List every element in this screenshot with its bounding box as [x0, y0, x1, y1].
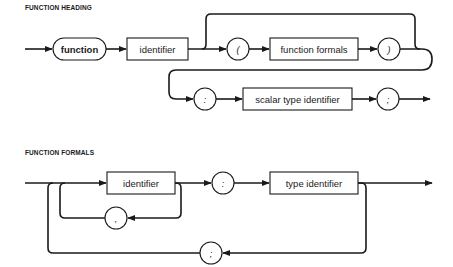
function-keyword-label: function: [61, 44, 99, 55]
scalar-type-identifier-node: scalar type identifier: [243, 88, 352, 110]
syntax-diagrams: function identifier ( function formals ): [0, 0, 453, 267]
close-paren-label: ): [387, 45, 391, 55]
comma-node: ,: [105, 207, 127, 229]
semicolon-node: ;: [200, 242, 222, 264]
comma-label: ,: [115, 214, 118, 224]
open-paren-node: (: [227, 38, 249, 60]
comma-return-path: [60, 183, 105, 218]
function-heading-diagram: function identifier ( function formals ): [25, 14, 432, 110]
type-identifier-node: type identifier: [270, 172, 358, 194]
scalar-type-identifier-label: scalar type identifier: [255, 94, 339, 105]
function-formals-label: function formals: [280, 44, 347, 55]
function-formals-node: function formals: [270, 38, 358, 60]
function-formals-diagram: identifier , : type identifier ;: [25, 172, 432, 264]
function-keyword-node: function: [53, 38, 106, 60]
colon-node: :: [212, 172, 234, 194]
identifier-node: identifier: [107, 172, 175, 194]
semicolon-node: ;: [377, 88, 399, 110]
identifier-label: identifier: [140, 44, 176, 55]
identifier-node: identifier: [127, 38, 188, 60]
close-paren-node: ): [378, 38, 400, 60]
type-identifier-label: type identifier: [286, 178, 343, 189]
identifier-label: identifier: [123, 178, 159, 189]
colon-node: :: [194, 88, 216, 110]
